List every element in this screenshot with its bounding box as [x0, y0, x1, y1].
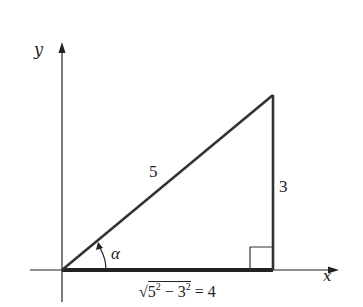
hypotenuse-label: 5	[149, 163, 158, 180]
result: = 4	[191, 283, 216, 300]
angle-alpha-label: α	[111, 245, 120, 262]
angle-arc	[100, 248, 106, 270]
radicand: 52 − 32	[148, 281, 191, 300]
triangle-diagram	[0, 0, 363, 307]
x-axis-label: x	[323, 269, 331, 284]
adjacent-side-label: √52 − 32 = 4	[139, 282, 216, 300]
triangle-hypotenuse	[62, 95, 273, 270]
radical-sign: √	[139, 283, 148, 300]
y-axis-arrow-icon	[59, 42, 66, 53]
y-axis-label: y	[34, 42, 43, 58]
opposite-side-label: 3	[279, 178, 288, 195]
right-angle-marker	[250, 247, 273, 270]
radicand-b: 3	[178, 283, 186, 300]
angle-arc-arrow-icon	[96, 242, 103, 250]
radicand-a: 5	[148, 283, 156, 300]
minus-sign: −	[161, 283, 178, 300]
